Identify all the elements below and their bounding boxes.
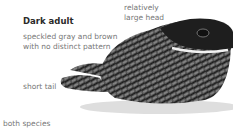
eye-icon: [197, 29, 209, 37]
head-label: relatively large head: [124, 3, 164, 23]
tail-label: short tail: [23, 82, 56, 91]
footer-label: both species: [3, 119, 50, 128]
figure-title: Dark adult: [23, 16, 73, 26]
description: speckled gray and brown with no distinct…: [23, 32, 118, 52]
